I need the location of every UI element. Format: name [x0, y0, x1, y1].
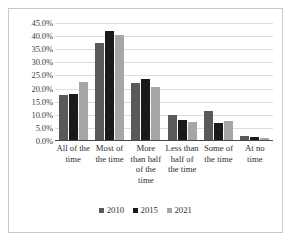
bar-2015-4[interactable]: [214, 123, 223, 141]
legend-swatch-icon: [133, 208, 138, 213]
y-tick-label: 30.0%: [32, 57, 53, 67]
legend-label: 2015: [141, 205, 158, 215]
bar-2010-4[interactable]: [204, 111, 213, 141]
bar-2021-2[interactable]: [151, 87, 160, 141]
y-tick-label: 10.0%: [32, 110, 53, 120]
bar-group: [200, 23, 236, 141]
bar-group: [55, 23, 91, 141]
bar-2021-0[interactable]: [79, 82, 88, 141]
chart-container: 45.0%40.0%35.0%30.0%25.0%20.0%15.0%10.0%…: [8, 8, 283, 233]
bar-2021-4[interactable]: [224, 121, 233, 141]
legend-entry-2021[interactable]: 2021: [167, 205, 192, 215]
x-axis-label: At no time: [237, 143, 273, 164]
y-tick-label: 20.0%: [32, 84, 53, 94]
legend-entry-2010[interactable]: 2010: [99, 205, 124, 215]
y-tick-label: 25.0%: [32, 70, 53, 80]
bar-2010-3[interactable]: [168, 115, 177, 141]
bar-group: [91, 23, 127, 141]
legend-label: 2021: [174, 205, 191, 215]
bar-group: [237, 23, 273, 141]
bar-2015-3[interactable]: [178, 120, 187, 142]
plot-wrapper: 45.0%40.0%35.0%30.0%25.0%20.0%15.0%10.0%…: [9, 9, 282, 232]
x-axis-label: Less than half of the time: [164, 143, 200, 175]
x-axis-label: Most of the time: [91, 143, 127, 164]
bar-2010-1[interactable]: [95, 43, 104, 141]
x-axis-label: All of the time: [55, 143, 91, 164]
bar-2021-1[interactable]: [115, 35, 124, 141]
bar-2015-1[interactable]: [105, 31, 114, 141]
legend-entry-2015[interactable]: 2015: [133, 205, 158, 215]
y-tick-label: 35.0%: [32, 44, 53, 54]
y-tick-label: 0.0%: [36, 136, 53, 146]
x-axis-label: Some of the time: [200, 143, 236, 164]
y-tick-label: 40.0%: [32, 31, 53, 41]
x-axis-category-labels: All of the timeMost of the timeMore than…: [55, 143, 273, 185]
x-axis-label: More than half of the time: [128, 143, 164, 185]
bar-groups: [55, 23, 273, 141]
y-tick-label: 5.0%: [36, 123, 53, 133]
plot-area: [55, 23, 273, 141]
legend-swatch-icon: [99, 208, 104, 213]
chart-legend: 201020152021: [9, 205, 282, 215]
bar-group: [128, 23, 164, 141]
y-axis-tick-labels: 45.0%40.0%35.0%30.0%25.0%20.0%15.0%10.0%…: [13, 23, 53, 141]
x-axis-line: [55, 140, 273, 141]
bar-2010-2[interactable]: [131, 83, 140, 141]
bar-group: [164, 23, 200, 141]
legend-label: 2010: [107, 205, 124, 215]
y-tick-label: 45.0%: [32, 18, 53, 28]
bar-2010-0[interactable]: [59, 95, 68, 141]
bar-2015-0[interactable]: [69, 94, 78, 141]
bar-2021-3[interactable]: [188, 122, 197, 141]
legend-swatch-icon: [167, 208, 172, 213]
y-tick-label: 15.0%: [32, 97, 53, 107]
bar-2015-2[interactable]: [141, 79, 150, 141]
